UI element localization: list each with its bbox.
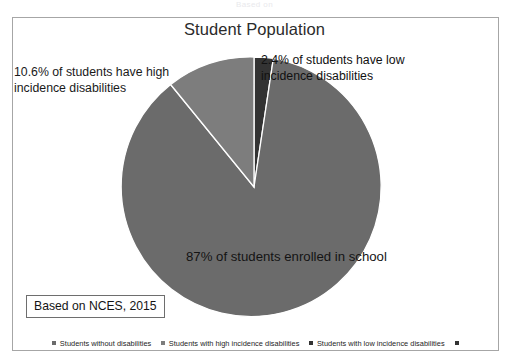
square-marker-icon — [161, 341, 165, 345]
legend-item-low-incidence[interactable]: Students with low incidence disabilities — [309, 339, 444, 348]
square-marker-icon — [455, 341, 459, 345]
square-marker-icon — [52, 341, 56, 345]
legend-item-high-incidence[interactable]: Students with high incidence disabilitie… — [161, 339, 299, 348]
legend-item-unlabeled[interactable] — [455, 341, 459, 345]
chart-legend: Students without disabilities Students w… — [12, 336, 499, 350]
callout-high-incidence: 10.6% of students have high incidence di… — [14, 64, 194, 96]
legend-label: Students with high incidence disabilitie… — [169, 339, 300, 348]
screenshot-canvas: Based on Student Population 10.6% of stu… — [0, 0, 509, 355]
legend-item-without-disabilities[interactable]: Students without disabilities — [52, 339, 151, 348]
square-marker-icon — [309, 341, 313, 345]
chart-title: Student Population — [0, 20, 509, 39]
source-note-box: Based on NCES, 2015 — [26, 295, 165, 318]
legend-label: Students without disabilities — [60, 339, 151, 348]
legend-label: Students with low incidence disabilities — [317, 339, 445, 348]
callout-low-incidence: 2.4% of students have low incidence disa… — [261, 52, 451, 84]
slice-label-enrolled: 87% of students enrolled in school — [186, 249, 436, 264]
clipped-header-text: Based on — [0, 0, 509, 7]
